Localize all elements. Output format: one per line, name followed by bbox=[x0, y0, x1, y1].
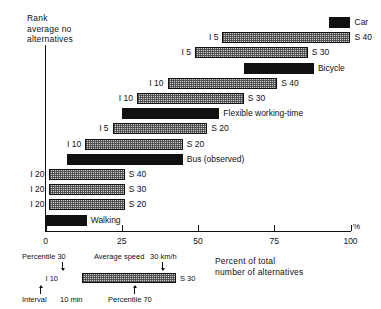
x-axis-line bbox=[45, 231, 351, 232]
x-axis-tick-100 bbox=[351, 225, 352, 231]
chart-bar bbox=[49, 199, 125, 210]
percent-sign: % bbox=[353, 222, 360, 231]
bar-right-label: S 40 bbox=[281, 78, 299, 89]
legend-percentile-70-label: Percentile 70 bbox=[108, 295, 152, 304]
bar-interval-label: I 5 bbox=[209, 32, 218, 43]
chart-bar-row: I 20S 20 bbox=[0, 199, 381, 210]
chart-bar-row: Bus (observed) bbox=[0, 154, 381, 165]
chart-bar bbox=[195, 47, 308, 58]
bar-right-label: Car bbox=[355, 17, 369, 28]
legend-bar-speed-label: S 30 bbox=[180, 274, 195, 283]
bar-interval-label: I 20 bbox=[30, 169, 44, 180]
x-axis-ticklabel-25: 25 bbox=[117, 236, 126, 246]
x-axis-ticklabel-100: 100 bbox=[343, 236, 357, 246]
chart-bar bbox=[49, 184, 125, 195]
chart-bar-row: I 10S 30 bbox=[0, 93, 381, 104]
bar-right-label: S 30 bbox=[248, 93, 266, 104]
legend: Percentile 30 Average speed 30 km/h I 10… bbox=[22, 252, 207, 304]
chart-bar bbox=[168, 78, 278, 89]
x-axis-tick-50 bbox=[198, 225, 199, 231]
x-axis-ticklabel-75: 75 bbox=[270, 236, 279, 246]
chart-bar-row: I 5S 30 bbox=[0, 47, 381, 58]
bar-right-label: S 20 bbox=[129, 199, 147, 210]
bar-right-label: S 40 bbox=[129, 169, 147, 180]
bar-interval-label: I 5 bbox=[181, 47, 190, 58]
bar-interval-label: I 20 bbox=[30, 184, 44, 195]
chart-bar-row: Flexible working-time bbox=[0, 108, 381, 119]
legend-arrow-interval bbox=[40, 286, 41, 294]
legend-percentile-30-label: Percentile 30 bbox=[22, 252, 66, 261]
chart-bar-row: I 5S 20 bbox=[0, 123, 381, 134]
bar-right-label: Bus (observed) bbox=[187, 154, 245, 165]
bar-right-label: S 20 bbox=[187, 139, 205, 150]
chart-bar bbox=[67, 154, 183, 165]
bar-right-label: S 20 bbox=[211, 123, 229, 134]
bar-right-label: S 40 bbox=[355, 32, 373, 43]
legend-arrow-average-speed bbox=[162, 262, 163, 270]
chart-bar-row: I 10S 40 bbox=[0, 78, 381, 89]
bar-interval-label: I 10 bbox=[149, 78, 163, 89]
chart-bar bbox=[329, 17, 350, 28]
bar-interval-label: I 20 bbox=[30, 199, 44, 210]
chart-bar bbox=[244, 63, 314, 74]
x-axis-title: Percent of total number of alternatives bbox=[215, 256, 304, 277]
chart-bar-row: I 20S 40 bbox=[0, 169, 381, 180]
legend-interval-value: 10 min bbox=[60, 295, 83, 304]
bar-right-label: Flexible working-time bbox=[223, 108, 303, 119]
chart-bar bbox=[49, 169, 125, 180]
chart-bar-row: I 20S 30 bbox=[0, 184, 381, 195]
legend-average-speed-label: Average speed bbox=[94, 252, 144, 261]
x-axis-tick-25 bbox=[122, 225, 123, 231]
legend-arrow-percentile-70 bbox=[134, 286, 135, 294]
chart-bar bbox=[85, 139, 183, 150]
chart-bar-row: Bicycle bbox=[0, 63, 381, 74]
chart-bar-row: I 10S 20 bbox=[0, 139, 381, 150]
chart-bar-row: Walking bbox=[0, 215, 381, 226]
x-axis-tick-75 bbox=[274, 225, 275, 231]
legend-average-speed-value: 30 km/h bbox=[150, 252, 177, 261]
bar-interval-label: I 5 bbox=[99, 123, 108, 134]
bar-interval-label: I 10 bbox=[67, 139, 81, 150]
chart-bar bbox=[122, 108, 220, 119]
x-axis-ticklabel-0: 0 bbox=[43, 236, 48, 246]
legend-bar-interval-label: I 10 bbox=[45, 274, 58, 283]
chart-root: Rank average no alternatives CarI 5S 40I… bbox=[0, 0, 381, 309]
bar-right-label: S 30 bbox=[129, 184, 147, 195]
chart-bar bbox=[137, 93, 244, 104]
chart-bar bbox=[222, 32, 350, 43]
chart-bar bbox=[113, 123, 208, 134]
legend-sample-bar bbox=[82, 273, 176, 283]
x-axis-tick-0 bbox=[46, 225, 47, 231]
bar-interval-label: I 10 bbox=[119, 93, 133, 104]
x-axis-ticklabel-50: 50 bbox=[193, 236, 202, 246]
chart-bar-row: Car bbox=[0, 17, 381, 28]
bar-right-label: Bicycle bbox=[318, 63, 345, 74]
bar-right-label: S 30 bbox=[312, 47, 330, 58]
legend-arrow-percentile-30 bbox=[62, 262, 63, 270]
bar-right-label: Walking bbox=[91, 215, 121, 226]
chart-bar-row: I 5S 40 bbox=[0, 32, 381, 43]
legend-interval-label: Interval bbox=[22, 295, 47, 304]
chart-bar bbox=[46, 215, 87, 226]
